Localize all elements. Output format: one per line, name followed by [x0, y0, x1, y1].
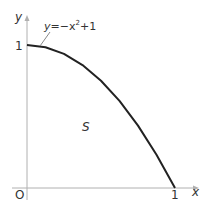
region-label: S — [82, 120, 90, 134]
equation-leader-line — [40, 32, 50, 46]
parabola-curve — [27, 45, 175, 188]
x-axis-label: x — [191, 185, 200, 199]
diagram-canvas: y x O 1 1 y=−x2+1 S — [0, 0, 209, 207]
x-tick-label: 1 — [171, 188, 179, 202]
equation-body: =−x — [51, 20, 76, 33]
origin-label: O — [15, 188, 24, 202]
y-tick-label: 1 — [15, 39, 23, 53]
curve-equation-label: y=−x2+1 — [43, 19, 96, 33]
y-axis-arrow-icon — [25, 15, 30, 21]
y-axis-label: y — [14, 10, 23, 24]
equation-tail: +1 — [80, 20, 96, 33]
